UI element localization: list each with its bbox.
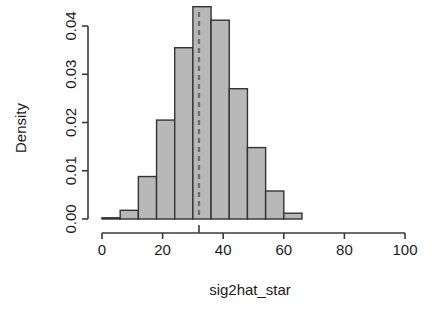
- histogram-bar: [120, 210, 138, 219]
- histogram-bar: [247, 148, 265, 219]
- histogram-canvas: 0.000.010.020.030.04 020406080100 Densit…: [0, 0, 436, 323]
- y-axis: [82, 26, 88, 219]
- histogram-bar: [211, 20, 229, 219]
- x-tick-label: 60: [275, 241, 292, 258]
- histogram-bar: [157, 120, 175, 219]
- x-tick-label: 40: [215, 241, 232, 258]
- x-tick-label: 0: [98, 241, 106, 258]
- histogram-bar: [229, 89, 247, 219]
- x-axis-title: sig2hat_star: [209, 281, 291, 298]
- y-tick-label: 0.02: [62, 108, 79, 137]
- x-tick-label: 100: [392, 241, 417, 258]
- y-tick-label: 0.00: [62, 204, 79, 233]
- histogram-bar: [102, 218, 120, 219]
- histogram-bar: [266, 191, 284, 219]
- histogram-bar: [284, 213, 302, 219]
- y-tick-labels: 0.000.010.020.030.04: [62, 11, 79, 233]
- x-tick-label: 80: [336, 241, 353, 258]
- x-axis: [102, 225, 405, 239]
- histogram-bar: [193, 7, 211, 219]
- y-tick-label: 0.01: [62, 156, 79, 185]
- histogram-bar: [138, 177, 156, 219]
- x-tick-labels: 020406080100: [98, 241, 418, 258]
- y-tick-label: 0.03: [62, 60, 79, 89]
- histogram-plot: 0.000.010.020.030.04 020406080100 Densit…: [0, 0, 436, 323]
- y-tick-label: 0.04: [62, 11, 79, 40]
- histogram-bar: [175, 48, 193, 219]
- x-tick-label: 20: [154, 241, 171, 258]
- y-axis-title: Density: [12, 102, 29, 153]
- histogram-bars: [102, 7, 302, 219]
